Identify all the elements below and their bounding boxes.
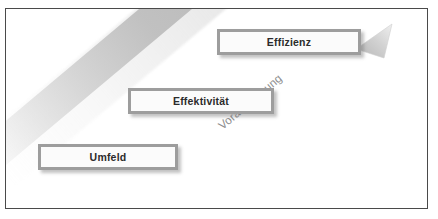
step-box-effizienz[interactable]: Effizienz (217, 29, 361, 55)
diagram-frame: Voraussetzung Effizienz Effektivität Umf… (5, 8, 428, 209)
step-box-effektivitaet[interactable]: Effektivität (128, 88, 274, 114)
diagram-frame-inner: Voraussetzung Effizienz Effektivität Umf… (6, 9, 427, 208)
step-label-effektivitaet: Effektivität (173, 95, 229, 107)
diagram-canvas: Voraussetzung Effizienz Effektivität Umf… (0, 0, 438, 219)
step-label-effizienz: Effizienz (267, 36, 311, 48)
step-label-umfeld: Umfeld (90, 151, 127, 163)
step-box-umfeld[interactable]: Umfeld (38, 144, 178, 170)
